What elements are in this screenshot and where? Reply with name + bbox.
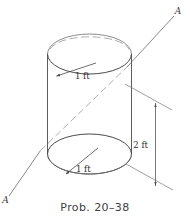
cylinder-diagram: A A 1 ft 1 ft 2 ft — [0, 0, 190, 222]
height-lower-extension-line — [126, 164, 173, 190]
height-upper-extension-line — [125, 84, 172, 110]
top-radius-label: 1 ft — [75, 71, 90, 81]
top-radius-dimension: 1 ft — [57, 63, 97, 81]
axis-line-upper-right — [127, 16, 174, 67]
top-ellipse-back-arc — [48, 34, 132, 54]
axis-line-lower-left — [9, 151, 41, 197]
bottom-radius-dimension: 1 ft — [66, 148, 98, 174]
cylinder-top-face — [48, 34, 132, 74]
height-dimension: 2 ft — [125, 84, 173, 190]
figure-container: A A 1 ft 1 ft 2 ft Prob. 20–38 — [0, 0, 190, 222]
bottom-radius-label: 1 ft — [76, 164, 91, 174]
cylinder-body — [48, 54, 132, 154]
axis-label-top-right: A — [174, 6, 182, 16]
axis-of-rotation: A A — [1, 6, 182, 205]
figure-caption: Prob. 20–38 — [0, 201, 190, 214]
height-label: 2 ft — [133, 140, 148, 150]
